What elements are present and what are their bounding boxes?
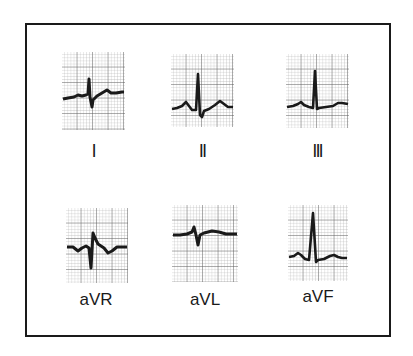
ecg-panel-lead-aVF xyxy=(288,205,348,281)
ecg-tracing-lead-II xyxy=(171,54,234,127)
lead-label-II: II xyxy=(179,140,227,162)
ecg-panel-lead-II xyxy=(171,54,234,127)
ecg-tracing-lead-aVL xyxy=(172,205,238,282)
ecg-panel-lead-aVL xyxy=(172,205,238,282)
ecg-panel-lead-III xyxy=(286,54,349,128)
lead-label-aVR: aVR xyxy=(56,290,136,310)
lead-label-aVF: aVF xyxy=(278,287,358,307)
ecg-tracing-lead-III xyxy=(286,54,349,128)
ecg-tracing-lead-I xyxy=(62,52,125,130)
lead-label-III: III xyxy=(294,140,342,162)
ecg-panel-lead-aVR xyxy=(66,208,128,283)
ecg-tracing-lead-aVR xyxy=(66,208,128,283)
ecg-tracing-lead-aVF xyxy=(288,205,348,281)
lead-label-I: I xyxy=(70,140,118,162)
lead-label-aVL: aVL xyxy=(165,290,245,310)
ecg-panel-lead-I xyxy=(62,52,125,130)
